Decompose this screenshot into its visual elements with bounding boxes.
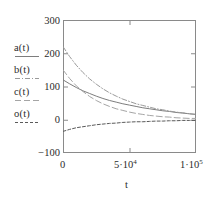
legend-entry-o[interactable]: o(t) — [14, 108, 48, 130]
legend-label-c: c(t) — [14, 86, 48, 98]
plot-canvas — [63, 20, 196, 153]
legend-sample-o-short-dash-line — [15, 121, 39, 124]
legend-entry-c[interactable]: c(t) — [14, 86, 48, 108]
legend-sample-a-solid-line — [15, 55, 39, 58]
legend-entry-b[interactable]: b(t) — [14, 64, 48, 86]
legend-sample-c-long-dash-line — [15, 99, 39, 102]
ytick-label-300: 300 — [34, 16, 60, 26]
curve-at — [63, 80, 196, 115]
ytick-label-minus-100: −100 — [30, 148, 60, 158]
xtick-exponent-100000: 5 — [199, 158, 203, 166]
curve-ct — [63, 70, 196, 119]
xtick-exponent-50000: 4 — [133, 158, 137, 166]
legend-label-o: o(t) — [14, 108, 48, 120]
xtick-label-50000: 5·104 — [114, 160, 137, 170]
chart-figure: a(t) b(t) c(t) o(t) — [0, 0, 215, 199]
legend-label-b: b(t) — [14, 64, 48, 76]
data-curves — [63, 47, 196, 132]
curve-bt — [63, 47, 196, 115]
axis-ticks — [63, 20, 196, 153]
legend-sample-b-dash-dot-line — [15, 77, 39, 80]
xtick-label-100000: 1·105 — [180, 160, 203, 170]
chart-legend: a(t) b(t) c(t) o(t) — [14, 42, 48, 130]
x-axis-title: t — [125, 180, 128, 190]
plot-border — [64, 21, 196, 153]
xtick-label-0: 0 — [60, 160, 65, 170]
xtick-mantissa-100000: 1·10 — [180, 159, 199, 170]
legend-label-a: a(t) — [14, 42, 48, 54]
curve-ot — [63, 120, 196, 131]
legend-entry-a[interactable]: a(t) — [14, 42, 48, 64]
plot-area — [63, 20, 196, 153]
xtick-mantissa-50000: 5·10 — [114, 159, 133, 170]
